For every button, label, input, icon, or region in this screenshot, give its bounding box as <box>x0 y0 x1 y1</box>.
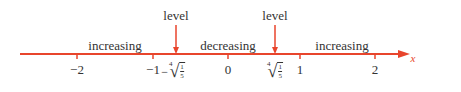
axis-label: x <box>411 52 416 64</box>
region-label: increasing <box>88 38 141 54</box>
axis-arrow-icon <box>398 50 410 58</box>
region-label: increasing <box>315 38 368 54</box>
tick-label: −1 <box>146 62 160 78</box>
critical-point-label: − 4 √ 15 <box>161 62 185 80</box>
critical-point-label: 4 √ 15 <box>267 62 283 80</box>
tick-label: −2 <box>70 62 84 78</box>
tick-label: 0 <box>225 62 232 78</box>
arrow-down-icon <box>272 47 278 54</box>
arrow-down-icon <box>173 47 179 54</box>
level-annotation: level <box>163 8 188 24</box>
region-label: decreasing <box>200 38 256 54</box>
tick-label: 2 <box>372 62 379 78</box>
level-annotation: level <box>262 8 287 24</box>
tick-label: 1 <box>297 62 304 78</box>
